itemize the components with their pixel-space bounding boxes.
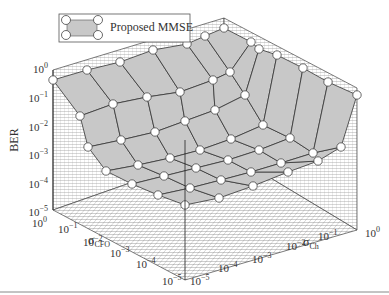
data-point-marker	[196, 146, 204, 154]
data-point-marker	[255, 45, 263, 53]
z-tick-labels: 10010−110−210−310−410−5	[28, 61, 48, 218]
data-point-marker	[154, 191, 162, 199]
data-point-marker	[83, 66, 91, 74]
data-point-marker	[149, 46, 157, 54]
tick-label: 100	[365, 225, 380, 239]
data-point-marker	[286, 134, 294, 142]
data-point-marker	[226, 68, 234, 76]
legend: Proposed MMSE	[59, 14, 193, 42]
tick-label: 10−3	[28, 147, 48, 161]
legend-label: Proposed MMSE	[110, 20, 193, 34]
tick-label: 100	[33, 61, 48, 75]
legend-marker-icon	[62, 16, 71, 25]
ber-surface-chart: 10010−110−210−310−410−5 BER 10010−110−21…	[0, 0, 389, 295]
tick-label: 100	[32, 215, 47, 229]
data-point-marker	[176, 88, 184, 96]
data-point-marker	[249, 182, 257, 190]
tick-label: 10−4	[28, 176, 48, 190]
data-point-marker	[116, 58, 124, 66]
tick-label: 10−4	[218, 260, 238, 274]
data-point-marker	[224, 156, 232, 164]
data-point-marker	[151, 128, 159, 136]
tick-label: 10−1	[318, 228, 338, 242]
data-point-marker	[134, 161, 142, 169]
legend-marker-icon	[62, 31, 71, 40]
data-point-marker	[284, 168, 292, 176]
tick-label: 10−5	[162, 273, 182, 287]
data-point-marker	[247, 38, 255, 46]
data-point-marker	[76, 112, 84, 120]
data-point-marker	[273, 51, 281, 59]
data-point-marker	[227, 135, 235, 143]
data-point-marker	[84, 143, 92, 151]
data-point-marker	[160, 172, 168, 180]
legend-marker-icon	[94, 16, 103, 25]
data-point-marker	[220, 24, 228, 32]
tick-label: 10−2	[28, 119, 48, 133]
data-point-marker	[192, 164, 200, 172]
legend-swatch	[67, 20, 97, 36]
data-point-marker	[309, 149, 317, 157]
tick-label: 10−1	[58, 221, 78, 235]
data-point-marker	[181, 117, 189, 125]
data-point-marker	[241, 91, 249, 99]
data-point-marker	[259, 121, 267, 129]
legend-marker-icon	[94, 31, 103, 40]
data-point-marker	[49, 76, 57, 84]
tick-label: 10−5	[190, 273, 210, 287]
data-point-marker	[217, 176, 225, 184]
data-point-marker	[353, 91, 361, 99]
data-point-marker	[102, 167, 110, 175]
tick-label: 10−1	[28, 90, 48, 104]
data-point-marker	[314, 157, 322, 165]
data-point-marker	[128, 180, 136, 188]
z-axis-label: BER	[7, 128, 21, 151]
data-point-marker	[211, 106, 219, 114]
data-point-marker	[186, 184, 194, 192]
data-point-marker	[201, 32, 209, 40]
data-point-marker	[215, 194, 223, 202]
data-point-marker	[209, 76, 217, 84]
tick-label: 10−3	[252, 251, 272, 265]
data-point-marker	[299, 64, 307, 72]
data-point-marker	[324, 78, 332, 86]
data-point-marker	[247, 168, 255, 176]
tick-label: 10−3	[110, 245, 130, 259]
data-point-marker	[143, 93, 151, 101]
data-point-marker	[117, 136, 125, 144]
tick-label: 10−4	[136, 256, 156, 270]
data-point-marker	[337, 143, 345, 151]
data-point-marker	[166, 154, 174, 162]
data-point-marker	[277, 159, 285, 167]
data-point-marker	[255, 146, 263, 154]
data-point-marker	[109, 100, 117, 108]
